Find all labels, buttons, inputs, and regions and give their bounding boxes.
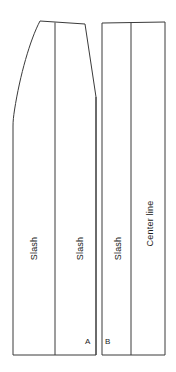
slash-label-1-text: Slash — [30, 228, 39, 270]
point-label-b-text: B — [105, 337, 110, 346]
point-label-a-text: A — [85, 337, 90, 346]
point-label-a: A — [85, 338, 90, 346]
slash-label-3-text: Slash — [114, 228, 123, 270]
center-line-label-text: Center line — [146, 193, 155, 255]
center-line-label: Center line — [119, 219, 176, 233]
slash-label-1: Slash — [13, 244, 55, 258]
panel-fill-right — [102, 22, 165, 355]
slash-label-2-text: Slash — [76, 228, 85, 270]
pattern-outline-svg — [0, 0, 176, 372]
slash-label-2: Slash — [59, 244, 101, 258]
slash-label-3: Slash — [97, 244, 139, 258]
point-label-b: B — [105, 338, 110, 346]
pattern-diagram: Slash Slash Slash Center line A B — [0, 0, 176, 372]
